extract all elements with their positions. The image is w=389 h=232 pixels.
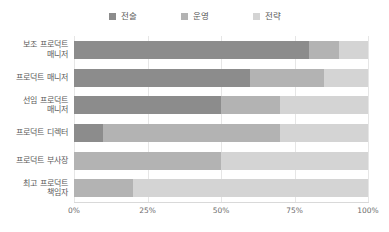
bar-segment[interactable] — [324, 69, 368, 87]
bar-segment[interactable] — [221, 152, 368, 170]
x-tick-label: 0% — [54, 206, 94, 215]
gridline-100 — [368, 36, 369, 202]
bar-row[interactable] — [74, 124, 368, 142]
bar-segment[interactable] — [309, 41, 338, 59]
bar-segment[interactable] — [103, 124, 279, 142]
bar-segment[interactable] — [74, 179, 133, 197]
bar-row[interactable] — [74, 41, 368, 59]
gridline-25 — [148, 36, 149, 202]
x-tick-label: 25% — [128, 206, 168, 215]
y-axis-label: 프로덕트 디렉터 — [0, 128, 68, 138]
y-axis-label: 선임 프로덕트 매니저 — [0, 96, 68, 115]
x-axis-line — [74, 202, 369, 203]
bar-row[interactable] — [74, 69, 368, 87]
bar-segment[interactable] — [133, 179, 368, 197]
x-tick-label: 100% — [348, 206, 388, 215]
gridline-75 — [295, 36, 296, 202]
bar-segment[interactable] — [221, 96, 280, 114]
gridline-50 — [221, 36, 222, 202]
bar-segment[interactable] — [280, 96, 368, 114]
x-tick-label: 50% — [201, 206, 241, 215]
bar-segment[interactable] — [74, 69, 250, 87]
plot-area — [74, 36, 368, 202]
bar-segment[interactable] — [74, 41, 309, 59]
y-axis-label: 보조 프로덕트 매니저 — [0, 40, 68, 59]
legend-item-tactical[interactable]: 전술 — [109, 12, 137, 21]
legend-item-strategic[interactable]: 전략 — [253, 12, 281, 21]
y-axis-label: 최고 프로덕트 책임자 — [0, 179, 68, 198]
legend-swatch-operational — [181, 13, 188, 20]
bar-segment[interactable] — [339, 41, 368, 59]
bar-segment[interactable] — [74, 124, 103, 142]
y-axis-label: 프로덕트 부사장 — [0, 156, 68, 166]
legend-label-tactical: 전술 — [121, 12, 137, 21]
bar-segment[interactable] — [74, 96, 221, 114]
x-tick-label: 75% — [275, 206, 315, 215]
bar-row[interactable] — [74, 96, 368, 114]
bar-row[interactable] — [74, 179, 368, 197]
stacked-bar-chart: 전술 운영 전략 보조 프로덕트 매니저프로덕트 매니저선임 프로덕트 매니저프… — [0, 0, 389, 232]
legend-swatch-tactical — [109, 13, 116, 20]
legend-label-strategic: 전략 — [265, 12, 281, 21]
y-axis-label: 프로덕트 매니저 — [0, 73, 68, 83]
bar-segment[interactable] — [250, 69, 324, 87]
gridline-0 — [74, 36, 75, 202]
bar-segment[interactable] — [74, 152, 221, 170]
chart-legend: 전술 운영 전략 — [0, 9, 389, 23]
legend-item-operational[interactable]: 운영 — [181, 12, 209, 21]
bar-row[interactable] — [74, 152, 368, 170]
legend-label-operational: 운영 — [193, 12, 209, 21]
legend-swatch-strategic — [253, 13, 260, 20]
bar-segment[interactable] — [280, 124, 368, 142]
